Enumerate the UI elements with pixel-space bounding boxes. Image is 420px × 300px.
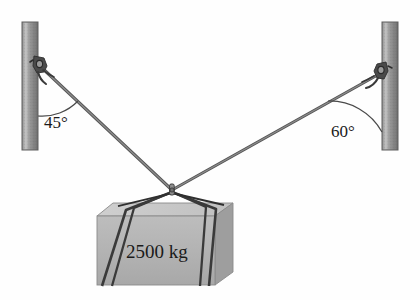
left-angle-label: 45° [44,113,68,132]
physics-diagram: 45° 60° [0,0,420,300]
knot-shackle-icon [170,184,175,195]
right-angle-label: 60° [331,122,355,141]
block-side-face [215,203,233,285]
diagram-canvas: 45° 60° [0,0,420,300]
right-post [382,22,398,150]
left-post [22,22,38,150]
block-top-face [97,203,233,216]
mass-label: 2500 kg [126,241,188,262]
